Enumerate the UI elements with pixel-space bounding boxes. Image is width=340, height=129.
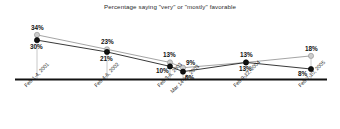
data-point-value-label: 30% [30, 43, 43, 50]
data-point-value-label: 13% [163, 51, 176, 58]
data-point-marker[interactable] [34, 38, 39, 43]
data-point-value-label: 34% [31, 24, 44, 31]
data-point-value-label: 23% [101, 38, 114, 45]
data-point-value-label: 18% [305, 45, 318, 52]
data-point-marker[interactable] [308, 53, 313, 58]
data-point-marker[interactable] [243, 60, 248, 65]
data-point-value-label: 21% [100, 55, 113, 62]
chart-plot-area [0, 0, 340, 129]
chart-container: Percentage saying "very" or "mostly" fav… [0, 0, 340, 129]
data-point-marker[interactable] [34, 32, 39, 37]
data-point-value-label: 13% [240, 51, 253, 58]
data-point-marker[interactable] [104, 49, 109, 54]
